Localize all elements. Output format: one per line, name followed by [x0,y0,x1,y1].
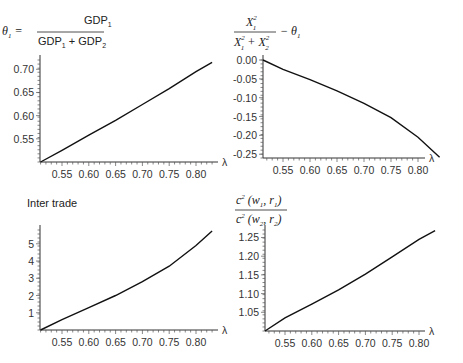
x-tick-label: 0.75 [159,336,180,348]
x-tick-label: 0.80 [186,168,207,180]
x-tick-label: 0.65 [105,336,126,348]
x-tick-label: 0.65 [327,164,348,176]
x-tick-label: 0.55 [52,168,73,180]
x-tick-label: 0.70 [132,336,153,348]
y-tick-label: 5 [28,238,34,250]
x-tick-label: 0.70 [354,164,375,176]
x-tick-label: 0.55 [273,164,294,176]
panel-cost-ratio: 0.550.600.650.700.750.80λ1.051.101.151.2… [239,225,436,349]
x-tick-label: 0.70 [355,337,376,349]
data-curve [263,60,440,157]
figure: 0.550.600.650.700.750.80λ0.550.600.650.7… [0,0,463,363]
y-tick-label: -0.15 [233,111,257,123]
y-tick-label: -0.25 [233,148,257,160]
title-cost-ratio: c2 (w1, r1) c2 (w2, r2) [235,193,287,228]
x-tick-label: 0.65 [105,168,126,180]
x-axis-label: λ [429,152,435,164]
x-axis-label: λ [222,324,228,336]
y-tick-label: 1.25 [239,231,260,243]
svg-text:θ1 =: θ1 = [2,24,23,40]
x-tick-label: 0.65 [328,337,349,349]
x-tick-label: 0.80 [409,337,430,349]
y-tick-label: 1 [28,307,34,319]
y-tick-label: 0.70 [14,63,35,75]
y-tick-label: 1.05 [239,306,260,318]
y-tick-label: 0.65 [14,86,35,98]
svg-text:c2 (w2, r2): c2 (w2, r2) [236,212,282,228]
svg-text:X21: X21 [245,14,257,32]
x-tick-label: 0.55 [52,336,73,348]
data-curve [41,62,213,162]
x-tick-label: 0.60 [302,337,323,349]
y-tick-label: 4 [28,255,34,267]
y-tick-label: -0.10 [233,92,257,104]
panel-x-share-minus-theta1: 0.550.600.650.700.750.80λ0.00-0.05-0.10-… [233,54,440,176]
x-axis-label: λ [222,156,228,168]
svg-text:Inter trade: Inter trade [27,197,77,209]
data-curve [41,231,213,330]
x-axis-label: λ [429,325,435,337]
panel-theta1: 0.550.600.650.700.750.80λ0.550.600.650.7… [14,55,228,180]
y-tick-label: -0.20 [233,129,257,141]
x-tick-label: 0.75 [382,337,403,349]
x-tick-label: 0.80 [408,164,429,176]
svg-text:GDP1 + GDP2: GDP1 + GDP2 [38,35,106,49]
svg-text:− θ1: − θ1 [280,24,301,40]
svg-text:GDP1: GDP1 [84,14,112,28]
y-tick-label: 0.60 [14,110,35,122]
y-tick-label: 1.15 [239,269,260,281]
x-tick-label: 0.75 [159,168,180,180]
y-tick-label: 0.00 [237,54,258,66]
y-tick-label: 2 [28,290,34,302]
y-tick-label: -0.05 [233,73,257,85]
title-theta1: θ1 = GDP1 GDP1 + GDP2 [2,14,112,49]
y-tick-label: 1.10 [239,288,260,300]
y-tick-label: 1.20 [239,250,260,262]
x-tick-label: 0.70 [132,168,153,180]
svg-text:c2 (w1, r1): c2 (w1, r1) [236,193,282,209]
title-x-share: X21 X21 + X22 − θ1 [233,14,301,52]
x-tick-label: 0.55 [275,337,296,349]
x-tick-label: 0.60 [300,164,321,176]
svg-text:X21 + X22: X21 + X22 [233,34,270,52]
x-tick-label: 0.75 [381,164,402,176]
data-curve [265,231,435,331]
x-tick-label: 0.60 [79,168,100,180]
title-inter-trade: Inter trade [27,197,77,209]
panel-inter-trade: 0.550.600.650.700.750.80λ12345 [28,225,228,348]
x-tick-label: 0.80 [186,336,207,348]
y-tick-label: 3 [28,272,34,284]
y-tick-label: 0.55 [14,133,35,145]
x-tick-label: 0.60 [79,336,100,348]
